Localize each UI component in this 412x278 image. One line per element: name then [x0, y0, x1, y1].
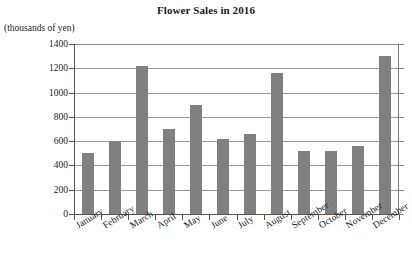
- x-axis-label-may: May: [182, 213, 202, 231]
- x-axis-label-august: August: [263, 207, 292, 230]
- x-tick-4: [182, 215, 183, 220]
- x-tick-0: [74, 215, 75, 220]
- x-tick-5: [209, 215, 210, 220]
- bar-chart: Flower Sales in 2016 (thousands of yen) …: [0, 0, 412, 278]
- x-axis-label-january: January: [74, 206, 105, 231]
- x-tick-6: [237, 215, 238, 220]
- x-axis-label-july: July: [236, 213, 255, 230]
- x-tick-7: [264, 215, 265, 220]
- x-axis-label-april: April: [155, 211, 178, 230]
- x-axis-labels: JanuaryFebruaryMarchAprilMayJuneJulyAugu…: [0, 0, 412, 278]
- x-axis-label-june: June: [209, 213, 229, 231]
- x-tick-3: [155, 215, 156, 220]
